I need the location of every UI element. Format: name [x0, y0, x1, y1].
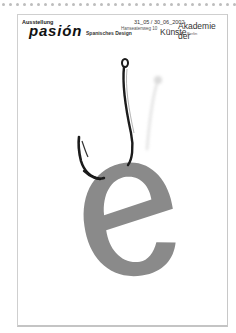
fish-hook-icon — [79, 59, 134, 179]
dot — [121, 3, 124, 6]
dot — [184, 3, 187, 6]
dot — [205, 3, 208, 6]
dot — [51, 3, 54, 6]
dot — [170, 3, 173, 6]
dot-row — [0, 3, 236, 7]
dot — [198, 3, 201, 6]
dot — [219, 3, 222, 6]
hook-shadow-icon — [147, 76, 162, 150]
hook-and-letter-artwork — [18, 15, 228, 327]
dot — [212, 3, 215, 6]
dot — [16, 3, 19, 6]
dot — [163, 3, 166, 6]
dot — [30, 3, 33, 6]
dot — [177, 3, 180, 6]
dot — [114, 3, 117, 6]
dot — [233, 3, 236, 6]
dot — [2, 3, 5, 6]
dot — [93, 3, 96, 6]
dot — [135, 3, 138, 6]
dot — [37, 3, 40, 6]
dot — [86, 3, 89, 6]
dot — [191, 3, 194, 6]
dot — [9, 3, 12, 6]
dot — [128, 3, 131, 6]
dot — [142, 3, 145, 6]
dot — [23, 3, 26, 6]
dot — [100, 3, 103, 6]
poster: Ausstellung pasión Spanisches Design 31_… — [17, 14, 228, 327]
dot — [44, 3, 47, 6]
dot — [58, 3, 61, 6]
dot — [149, 3, 152, 6]
dot — [156, 3, 159, 6]
dot — [226, 3, 229, 6]
dot — [65, 3, 68, 6]
dot — [107, 3, 110, 6]
dot — [79, 3, 82, 6]
dot — [72, 3, 75, 6]
